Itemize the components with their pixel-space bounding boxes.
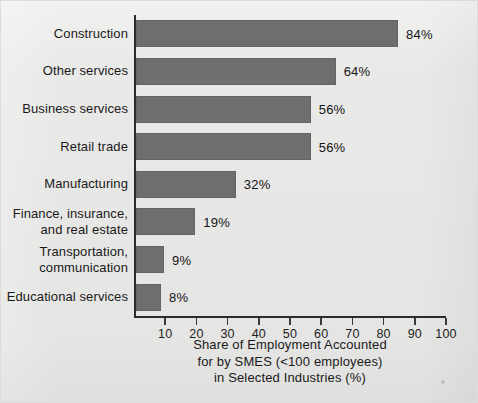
bar-value-label: 32% [244,177,271,192]
category-label: Finance, insurance, and real estate [13,206,128,237]
bar [136,58,336,85]
x-tick [227,318,229,325]
x-tick [258,318,260,325]
x-tick [196,318,198,325]
x-tick [445,318,447,325]
bar-value-label: 84% [406,26,433,41]
x-tick [352,318,354,325]
plot-area: 102030405060708090100 84%64%56%56%32%19%… [134,15,446,316]
x-axis-title-line-3: in Selected Industries (%) [134,370,446,387]
x-tick [289,318,291,325]
bar-row: 32% [136,171,448,198]
category-label: Construction [54,26,128,42]
bar [136,20,398,47]
category-label: Educational services [7,289,128,305]
x-axis-title-line-1: Share of Employment Accounted [134,337,446,354]
bar-row: 56% [136,96,448,123]
bar-row: 19% [136,208,448,235]
bar [136,96,311,123]
paper-speck [441,380,445,384]
x-tick [164,318,166,325]
category-label: Manufacturing [44,176,128,192]
bar [136,284,161,311]
x-axis-title: Share of Employment Accounted for by SME… [134,337,446,387]
category-label: Other services [43,63,128,79]
bar-row: 9% [136,246,448,273]
bar-value-label: 19% [203,214,230,229]
category-label: Retail trade [60,139,128,155]
chart-figure: 102030405060708090100 84%64%56%56%32%19%… [0,0,478,403]
bar-value-label: 56% [319,102,346,117]
x-tick [414,318,416,325]
x-axis-title-line-2: for by SMES (<100 employees) [134,354,446,371]
bar-value-label: 8% [169,290,188,305]
bar [136,133,311,160]
bar-row: 8% [136,284,448,311]
bar-value-label: 56% [319,139,346,154]
x-tick [383,318,385,325]
x-tick [320,318,322,325]
bar-row: 64% [136,58,448,85]
bar-row: 56% [136,133,448,160]
bar-value-label: 64% [344,64,371,79]
bar [136,208,195,235]
category-label: Business services [22,101,128,117]
bar [136,246,164,273]
bar [136,171,236,198]
bar-row: 84% [136,20,448,47]
category-label: Transportation, communication [39,244,128,275]
bar-value-label: 9% [172,252,191,267]
